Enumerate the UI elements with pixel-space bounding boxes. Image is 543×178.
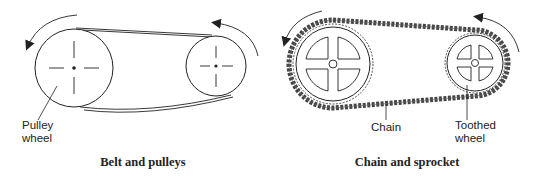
toothed-label-line1: Toothed xyxy=(455,119,496,132)
diagram-canvas xyxy=(0,0,543,178)
toothed-wheel xyxy=(445,33,505,93)
large-pulley-wheel xyxy=(35,29,113,107)
pulley-label-line2: wheel xyxy=(22,132,53,145)
toothed-wheel-label: Toothed wheel xyxy=(455,119,496,145)
small-pulley-wheel xyxy=(186,36,246,96)
pulley-label-line1: Pulley xyxy=(22,119,53,132)
chain-and-sprocket-diagram xyxy=(285,11,519,120)
belt-caption: Belt and pulleys xyxy=(100,155,185,170)
chain-caption: Chain and sprocket xyxy=(355,155,460,170)
toothed-label-line2: wheel xyxy=(455,132,496,145)
belt-and-pulleys-diagram xyxy=(28,15,258,120)
large-sprocket xyxy=(293,24,373,104)
pulley-wheel-label: Pulley wheel xyxy=(22,119,53,145)
chain-label: Chain xyxy=(371,121,401,134)
